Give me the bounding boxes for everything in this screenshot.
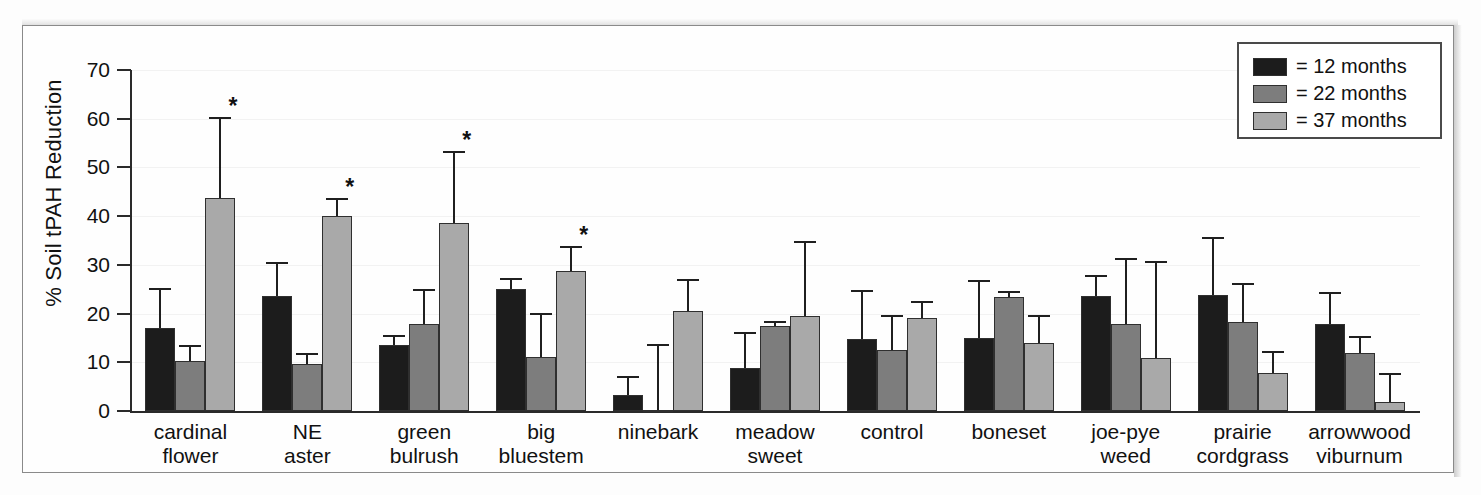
bar bbox=[439, 223, 469, 411]
bar bbox=[526, 357, 556, 411]
legend-label: = 12 months bbox=[1296, 55, 1407, 78]
bar bbox=[964, 338, 994, 411]
y-axis-tick bbox=[117, 69, 131, 71]
error-bar bbox=[189, 345, 191, 362]
error-bar-cap bbox=[1028, 315, 1050, 317]
bar bbox=[262, 296, 292, 411]
bar bbox=[145, 328, 175, 411]
error-bar bbox=[1125, 258, 1127, 325]
bar bbox=[175, 361, 205, 411]
legend: = 12 months = 22 months = 37 months bbox=[1237, 42, 1442, 139]
x-axis-category-line: viburnum bbox=[1275, 444, 1445, 468]
y-axis-tick-label: 0 bbox=[58, 400, 110, 421]
error-bar bbox=[1272, 351, 1274, 372]
bar bbox=[847, 339, 877, 411]
error-bar-cap bbox=[1379, 373, 1401, 375]
bar bbox=[1315, 324, 1345, 411]
significance-asterisk: * bbox=[345, 176, 354, 199]
error-bar-cap bbox=[764, 321, 786, 323]
x-axis-category-line: arrowwood bbox=[1275, 420, 1445, 444]
error-bar-cap bbox=[179, 345, 201, 347]
bar bbox=[994, 297, 1024, 411]
bar bbox=[1258, 373, 1288, 411]
error-bar-cap bbox=[149, 288, 171, 290]
error-bar bbox=[627, 376, 629, 395]
legend-item-12-months: = 12 months bbox=[1253, 53, 1440, 80]
error-bar bbox=[687, 279, 689, 311]
error-bar-cap bbox=[266, 262, 288, 264]
bar bbox=[643, 410, 673, 412]
bar bbox=[1111, 324, 1141, 411]
error-bar bbox=[1359, 336, 1361, 353]
gridline bbox=[132, 119, 1420, 120]
x-axis-category-label: arrowwoodviburnum bbox=[1275, 420, 1445, 467]
error-bar bbox=[336, 198, 338, 216]
x-axis-line bbox=[130, 411, 1420, 413]
error-bar-cap bbox=[1319, 292, 1341, 294]
legend-label: = 22 months bbox=[1296, 82, 1407, 105]
error-bar bbox=[540, 313, 542, 358]
error-bar bbox=[276, 262, 278, 295]
y-axis-tick bbox=[117, 215, 131, 217]
y-axis-tick bbox=[117, 313, 131, 315]
error-bar-cap bbox=[968, 280, 990, 282]
bar bbox=[1141, 358, 1171, 411]
error-bar-cap bbox=[1085, 275, 1107, 277]
legend-swatch-icon bbox=[1253, 112, 1287, 130]
bar bbox=[409, 324, 439, 411]
error-bar bbox=[657, 344, 659, 409]
error-bar bbox=[1095, 275, 1097, 296]
significance-asterisk: * bbox=[228, 95, 237, 118]
error-bar-cap bbox=[734, 332, 756, 334]
legend-item-22-months: = 22 months bbox=[1253, 80, 1440, 107]
error-bar-cap bbox=[647, 344, 669, 346]
error-bar-cap bbox=[617, 376, 639, 378]
gridline bbox=[132, 70, 1420, 71]
bar bbox=[322, 216, 352, 411]
bar bbox=[1024, 343, 1054, 411]
bar bbox=[1081, 296, 1111, 411]
legend-item-37-months: = 37 months bbox=[1253, 107, 1440, 134]
bar bbox=[730, 368, 760, 411]
error-bar bbox=[861, 290, 863, 340]
error-bar-cap bbox=[1232, 283, 1254, 285]
bar bbox=[790, 316, 820, 411]
error-bar-cap bbox=[500, 278, 522, 280]
bar bbox=[1345, 353, 1375, 411]
error-bar bbox=[1242, 283, 1244, 322]
error-bar bbox=[921, 301, 923, 318]
error-bar-cap bbox=[881, 315, 903, 317]
x-axis-category-line: bluestem bbox=[456, 444, 626, 468]
error-bar bbox=[1038, 315, 1040, 343]
error-bar bbox=[891, 315, 893, 350]
error-bar bbox=[219, 117, 221, 197]
bar bbox=[760, 326, 790, 411]
error-bar-cap bbox=[1202, 237, 1224, 239]
y-axis-tick-label: 40 bbox=[58, 205, 110, 226]
gridline bbox=[132, 167, 1420, 168]
bar bbox=[907, 318, 937, 411]
y-axis-tick bbox=[117, 264, 131, 266]
y-axis-tick-label: 10 bbox=[58, 351, 110, 372]
error-bar bbox=[1329, 292, 1331, 324]
bar bbox=[379, 345, 409, 411]
bar bbox=[1228, 322, 1258, 411]
error-bar-cap bbox=[998, 291, 1020, 293]
y-axis-tick-label: 60 bbox=[58, 108, 110, 129]
error-bar-cap bbox=[1145, 261, 1167, 263]
error-bar bbox=[804, 241, 806, 316]
error-bar-cap bbox=[677, 279, 699, 281]
error-bar bbox=[1389, 373, 1391, 402]
bar bbox=[1375, 402, 1405, 411]
error-bar bbox=[744, 332, 746, 369]
bar bbox=[496, 289, 526, 411]
error-bar-cap bbox=[296, 353, 318, 355]
error-bar bbox=[978, 280, 980, 337]
error-bar bbox=[453, 151, 455, 224]
significance-asterisk: * bbox=[579, 224, 588, 247]
y-axis-tick-label: 50 bbox=[58, 156, 110, 177]
y-axis-tick bbox=[117, 118, 131, 120]
error-bar bbox=[1155, 261, 1157, 358]
y-axis-tick-label: 30 bbox=[58, 254, 110, 275]
bar bbox=[877, 350, 907, 411]
